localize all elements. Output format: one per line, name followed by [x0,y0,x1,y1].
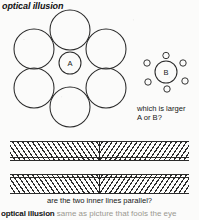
surround-circle [50,10,90,50]
circle-question-line-1: which is larger [137,104,186,113]
surround-circle-small [164,86,170,92]
ebbinghaus-figure-a: A [0,8,128,120]
test-circle-b-label: B [163,68,168,77]
hatched-band-bottom [10,174,189,194]
surround-circle [14,68,54,108]
surround-circle-small [145,79,151,85]
entry-term: optical illusion [1,209,55,218]
surround-circle-small [163,52,169,58]
dictionary-entry: optical illusion same as picture that fo… [1,209,198,218]
lines-question: are the two inner lines parallel? [0,196,199,205]
surround-circle [86,29,126,69]
circle-question-line-2: A or B? [137,113,162,122]
band-center-tick [99,174,100,194]
hatch-right [100,141,189,161]
test-circle-a-label: A [67,59,72,68]
entry-definition: same as picture that fools the eye [55,209,177,218]
band-center-tick [99,141,100,161]
dictionary-illustration-page: optical illusion A B [0,0,199,220]
surround-circle [86,68,126,108]
hatched-band-top [10,141,189,161]
surround-circle [14,29,54,69]
surround-circle-small [182,78,188,84]
hatch-left [10,141,100,161]
surround-circle [50,87,90,127]
ebbinghaus-figure-b: B [143,52,195,98]
surround-circle-small [144,60,150,66]
surround-circle-small [180,60,186,66]
